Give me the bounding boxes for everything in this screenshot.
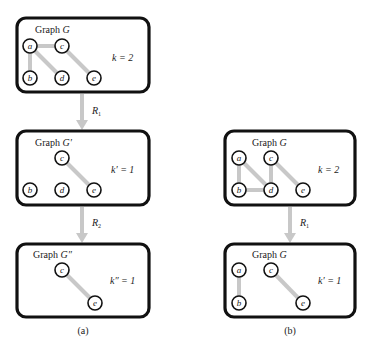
node-b: b — [232, 183, 246, 197]
panel-a: Graph G a c b d e k = 2 R1 Graph G′ c b … — [17, 18, 149, 337]
svg-text:e: e — [92, 185, 96, 195]
svg-text:b: b — [237, 298, 242, 308]
node-e: e — [87, 183, 101, 197]
arrow-down-icon — [76, 233, 88, 243]
graph-title: Graph G′ — [35, 137, 73, 148]
svg-text:b: b — [28, 185, 33, 195]
node-c: c — [55, 39, 69, 53]
k-label: k″ = 1 — [110, 275, 135, 286]
node-c: c — [264, 263, 278, 277]
node-a: a — [232, 151, 246, 165]
graph-title: Graph G — [252, 249, 287, 260]
graph-box-a2: Graph G′ c b d e k′ = 1 — [17, 131, 149, 205]
arrow-down-icon — [284, 233, 296, 243]
svg-text:e: e — [92, 73, 96, 83]
svg-text:d: d — [269, 185, 274, 195]
graph-box-a1: Graph G a c b d e k = 2 — [17, 18, 149, 92]
node-e: e — [87, 71, 101, 85]
reduction-rules-diagram: Graph G a c b d e k = 2 R1 Graph G′ c b … — [0, 0, 368, 348]
svg-text:c: c — [60, 41, 64, 51]
rule-label: R2 — [91, 217, 101, 229]
k-label: k = 2 — [318, 164, 339, 175]
node-e: e — [296, 296, 310, 310]
graph-title: Graph G — [35, 24, 70, 35]
rule-label: R1 — [91, 105, 101, 117]
graph-box-b1: Graph G a c b d e k = 2 — [225, 131, 355, 205]
k-label: k′ = 1 — [111, 164, 134, 175]
node-a: a — [232, 263, 246, 277]
svg-text:b: b — [28, 73, 33, 83]
svg-text:b: b — [237, 185, 242, 195]
rule-label: R1 — [299, 217, 309, 229]
graph-title: Graph G — [252, 137, 287, 148]
caption-a: (a) — [77, 325, 88, 337]
node-d: d — [55, 71, 69, 85]
svg-text:d: d — [60, 73, 65, 83]
svg-text:c: c — [60, 153, 64, 163]
node-b: b — [23, 71, 37, 85]
node-a: a — [23, 39, 37, 53]
svg-text:e: e — [301, 185, 305, 195]
node-c: c — [55, 151, 69, 165]
k-label: k′ = 1 — [318, 275, 341, 286]
arrow-r1-b: R1 — [284, 207, 309, 243]
arrow-r1-a: R1 — [76, 94, 101, 130]
node-e: e — [296, 183, 310, 197]
graph-title: Graph G″ — [33, 249, 73, 260]
panel-b: Graph G a c b d e k = 2 R1 Graph G a c — [225, 131, 355, 337]
svg-text:a: a — [237, 153, 242, 163]
k-label: k = 2 — [112, 52, 133, 63]
node-d: d — [264, 183, 278, 197]
node-b: b — [23, 183, 37, 197]
svg-text:c: c — [269, 153, 273, 163]
node-b: b — [232, 296, 246, 310]
graph-box-b2: Graph G a c b e k′ = 1 — [225, 244, 355, 317]
caption-b: (b) — [284, 325, 296, 337]
graph-box-a3: Graph G″ c e k″ = 1 — [17, 244, 149, 317]
node-d: d — [55, 183, 69, 197]
node-e: e — [88, 296, 102, 310]
svg-text:c: c — [269, 265, 273, 275]
svg-text:e: e — [93, 298, 97, 308]
svg-text:c: c — [60, 265, 64, 275]
node-c: c — [264, 151, 278, 165]
svg-text:a: a — [28, 41, 33, 51]
arrow-r2-a: R2 — [76, 207, 101, 243]
arrow-down-icon — [76, 120, 88, 130]
svg-text:d: d — [60, 185, 65, 195]
node-c: c — [55, 263, 69, 277]
svg-text:a: a — [237, 265, 242, 275]
svg-text:e: e — [301, 298, 305, 308]
